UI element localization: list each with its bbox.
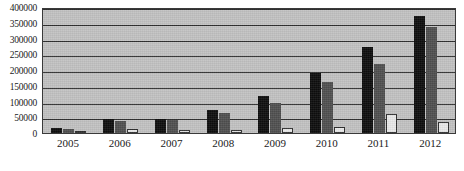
bar: [115, 121, 126, 133]
y-tick-label: 50000: [14, 113, 37, 123]
x-tick-label: 2007: [160, 137, 182, 149]
y-tick-label: 200000: [10, 66, 37, 76]
x-tick-label: 2005: [57, 137, 79, 149]
bar: [310, 73, 321, 133]
bar-group: [362, 9, 397, 133]
y-tick-label: 350000: [10, 19, 37, 29]
plot-area: [42, 8, 456, 134]
y-tick-label: 150000: [10, 82, 37, 92]
bar: [51, 128, 62, 133]
bar: [155, 119, 166, 133]
bar: [334, 127, 345, 133]
bar: [103, 119, 114, 133]
bar-group: [51, 9, 86, 133]
bar: [362, 47, 373, 133]
bar: [63, 129, 74, 133]
bar: [179, 130, 190, 133]
y-axis: 0500001000001500002000002500003000003500…: [0, 0, 40, 142]
bar-group: [103, 9, 138, 133]
bar-chart-figure: 0500001000001500002000002500003000003500…: [0, 0, 464, 171]
y-tick-label: 250000: [10, 50, 37, 60]
x-axis: 20052006200720082009201020112012: [42, 137, 456, 159]
bar: [374, 64, 385, 133]
bar-group: [414, 9, 449, 133]
bar: [258, 96, 269, 133]
bar: [207, 110, 218, 133]
x-tick-label: 2008: [212, 137, 234, 149]
bar-group: [155, 9, 190, 133]
bar: [127, 129, 138, 133]
bar: [426, 27, 437, 133]
y-tick-label: 300000: [10, 35, 37, 45]
bar: [167, 120, 178, 133]
bar: [282, 128, 293, 133]
bar-group: [207, 9, 242, 133]
bar: [75, 131, 86, 133]
x-tick-label: 2012: [419, 137, 441, 149]
bar-group: [310, 9, 345, 133]
x-tick-label: 2006: [109, 137, 131, 149]
bar: [231, 130, 242, 133]
bar: [438, 122, 449, 133]
bar: [270, 103, 281, 133]
bar: [386, 114, 397, 133]
y-tick-label: 100000: [10, 98, 37, 108]
bar: [414, 16, 425, 133]
y-tick-label: 0: [32, 129, 37, 139]
x-tick-label: 2010: [316, 137, 338, 149]
y-tick-label: 400000: [10, 3, 37, 13]
bar: [322, 82, 333, 133]
bar-group: [258, 9, 293, 133]
x-tick-label: 2011: [368, 137, 390, 149]
x-tick-label: 2009: [264, 137, 286, 149]
bars-layer: [43, 9, 455, 133]
bar: [219, 113, 230, 133]
